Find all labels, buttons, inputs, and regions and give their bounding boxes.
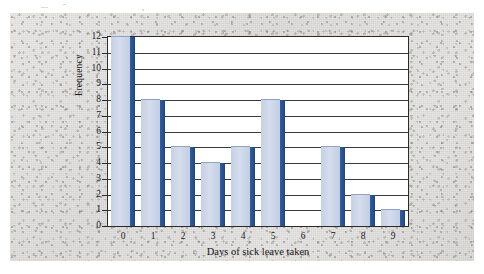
y-tick-mark	[102, 147, 107, 148]
x-tick-label: 0	[108, 231, 138, 241]
bar	[321, 147, 345, 226]
y-tick-label: 3	[79, 174, 101, 184]
x-tick-label: 4	[228, 231, 258, 241]
bar	[111, 37, 135, 226]
bar-face	[381, 209, 400, 226]
bar-side-3d	[130, 37, 135, 226]
bar-face	[351, 194, 370, 227]
x-tick-label: 9	[378, 231, 408, 241]
bar-face	[111, 36, 130, 226]
y-tick-mark	[102, 210, 107, 211]
y-axis-label: Frequency	[74, 54, 84, 96]
y-tick-mark	[102, 132, 107, 133]
y-tick-label: 12	[79, 32, 101, 42]
y-tick-mark	[102, 53, 107, 54]
plot-area	[107, 36, 409, 227]
y-tick-label: 6	[79, 127, 101, 137]
bar-face	[261, 99, 280, 226]
y-tick-mark	[102, 37, 107, 38]
y-tick-mark	[102, 100, 107, 101]
x-tick-label: 6	[288, 231, 318, 241]
x-tick-label: 2	[168, 231, 198, 241]
x-tick-label: 5	[258, 231, 288, 241]
stray-mark-1	[41, 7, 48, 8]
y-tick-label: 1	[79, 205, 101, 215]
stray-mark-3	[142, 9, 144, 11]
bar	[201, 163, 225, 226]
bar-face	[201, 162, 220, 226]
bar-side-3d	[400, 210, 405, 226]
bar	[171, 147, 195, 226]
y-tick-label: 5	[79, 142, 101, 152]
y-tick-mark	[102, 195, 107, 196]
x-tick-label: 7	[318, 231, 348, 241]
bar	[381, 210, 405, 226]
bar-face	[321, 146, 340, 226]
y-tick-label: 8	[79, 95, 101, 105]
bar	[141, 100, 165, 226]
bar-side-3d	[370, 195, 375, 227]
bar	[261, 100, 285, 226]
y-tick-label: 7	[79, 111, 101, 121]
x-tick-label: 3	[198, 231, 228, 241]
bar-side-3d	[280, 100, 285, 226]
y-tick-label: 4	[79, 158, 101, 168]
y-tick-mark	[102, 179, 107, 180]
y-tick-mark	[102, 69, 107, 70]
x-tick-label: 8	[348, 231, 378, 241]
y-tick-label: 2	[79, 190, 101, 200]
y-tick-mark	[102, 116, 107, 117]
bar-side-3d	[160, 100, 165, 226]
bar-side-3d	[220, 163, 225, 226]
y-tick-label: 0	[79, 221, 101, 231]
bar-series	[108, 37, 408, 226]
chart-page: 0123456789101112 0123456789 Frequency Da…	[0, 0, 484, 274]
bar-side-3d	[250, 147, 255, 226]
y-tick-mark	[102, 226, 107, 227]
x-tick-label: 1	[138, 231, 168, 241]
bar-face	[171, 146, 190, 226]
y-tick-mark	[102, 163, 107, 164]
bar-face	[231, 146, 250, 226]
bar-side-3d	[340, 147, 345, 226]
bar-side-3d	[190, 147, 195, 226]
bar	[231, 147, 255, 226]
y-tick-mark	[102, 84, 107, 85]
x-axis-label: Days of sick leave taken	[107, 246, 409, 257]
bar-face	[141, 99, 160, 226]
bar	[351, 195, 375, 227]
stray-mark-2	[63, 4, 66, 5]
